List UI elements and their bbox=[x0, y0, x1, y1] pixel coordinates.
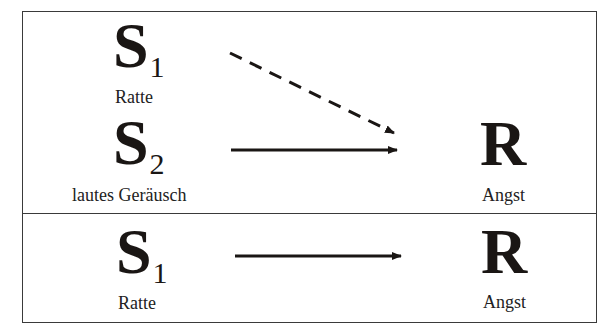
arrows-layer bbox=[0, 0, 609, 336]
dashed-arrow-s1-to-r bbox=[230, 53, 394, 133]
